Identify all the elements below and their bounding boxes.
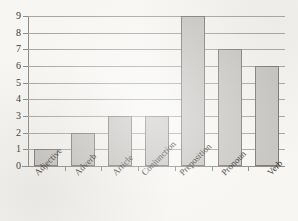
y-axis-line <box>28 16 29 166</box>
y-tick-7 <box>23 49 28 50</box>
gridline-6 <box>28 66 285 67</box>
x-tick-1 <box>65 167 66 171</box>
bar-pronoun <box>218 49 242 166</box>
y-tick-0 <box>23 166 28 167</box>
chart-page: 9 8 7 6 5 4 3 2 1 0 <box>0 0 298 221</box>
y-tick-3 <box>23 116 28 117</box>
x-tick-5 <box>212 167 213 171</box>
y-axis-label-7: 7 <box>16 44 21 54</box>
y-axis-label-1: 1 <box>16 144 21 154</box>
plot-area: 9 8 7 6 5 4 3 2 1 0 <box>28 16 285 166</box>
y-tick-6 <box>23 66 28 67</box>
gridline-7 <box>28 49 285 50</box>
bar-verb <box>255 66 279 166</box>
gridline-5 <box>28 83 285 84</box>
y-tick-8 <box>23 33 28 34</box>
y-axis-label-4: 4 <box>16 94 21 104</box>
y-axis-label-5: 5 <box>16 78 21 88</box>
y-tick-5 <box>23 83 28 84</box>
y-tick-1 <box>23 149 28 150</box>
x-tick-2 <box>101 167 102 171</box>
y-axis-label-3: 3 <box>16 111 21 121</box>
y-axis-label-8: 8 <box>16 28 21 38</box>
y-axis-label-2: 2 <box>16 128 21 138</box>
y-axis-label-0: 0 <box>16 161 21 171</box>
y-tick-4 <box>23 99 28 100</box>
x-tick-4 <box>175 167 176 171</box>
y-tick-9 <box>23 16 28 17</box>
y-axis-label-6: 6 <box>16 61 21 71</box>
gridline-9 <box>28 16 285 17</box>
gridline-8 <box>28 33 285 34</box>
y-tick-2 <box>23 133 28 134</box>
y-axis-label-9: 9 <box>16 11 21 21</box>
bar-preposition <box>181 16 205 166</box>
x-tick-6 <box>248 167 249 171</box>
gridline-4 <box>28 99 285 100</box>
